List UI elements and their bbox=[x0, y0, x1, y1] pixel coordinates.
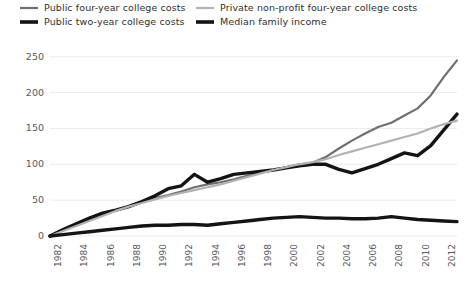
y-tick-label: 250 bbox=[0, 52, 44, 62]
college-costs-line-chart: Public four-year college costs Public tw… bbox=[0, 0, 473, 295]
x-tick-label: 2006 bbox=[369, 244, 378, 267]
legend-swatch-public-four-year bbox=[20, 5, 38, 11]
chart-legend: Public four-year college costs Public tw… bbox=[0, 0, 473, 34]
x-tick-label: 1982 bbox=[54, 244, 63, 267]
y-tick-label: 50 bbox=[0, 195, 44, 205]
legend-item-public-four-year[interactable]: Public four-year college costs bbox=[20, 2, 186, 13]
x-tick-label: 2012 bbox=[448, 244, 457, 267]
x-tick-label: 1990 bbox=[159, 244, 168, 267]
x-tick-label: 1984 bbox=[80, 244, 89, 267]
legend-swatch-private-four-year bbox=[196, 5, 214, 11]
x-tick-label: 1998 bbox=[264, 244, 273, 267]
legend-swatch-public-two-year bbox=[20, 19, 38, 25]
legend-label-public-four-year: Public four-year college costs bbox=[44, 2, 186, 13]
legend-item-median-family-income[interactable]: Median family income bbox=[196, 16, 327, 27]
legend-item-public-two-year[interactable]: Public two-year college costs bbox=[20, 16, 185, 27]
y-tick-label: 0 bbox=[0, 231, 44, 241]
y-axis-tick-labels: 050100150200250 bbox=[0, 34, 44, 244]
x-tick-label: 1994 bbox=[212, 244, 221, 267]
plot-canvas bbox=[0, 34, 473, 244]
x-tick-label: 2002 bbox=[317, 244, 326, 267]
x-tick-label: 2008 bbox=[395, 244, 404, 267]
x-tick-label: 1986 bbox=[107, 244, 116, 267]
y-tick-label: 200 bbox=[0, 88, 44, 98]
x-tick-label: 1988 bbox=[133, 244, 142, 267]
x-tick-label: 2000 bbox=[290, 244, 299, 267]
y-tick-label: 150 bbox=[0, 123, 44, 133]
legend-label-public-two-year: Public two-year college costs bbox=[44, 16, 185, 27]
x-tick-label: 2004 bbox=[343, 244, 352, 267]
series-line-median_family_income bbox=[50, 217, 457, 236]
x-tick-label: 2010 bbox=[422, 244, 431, 267]
y-gridlines bbox=[50, 57, 457, 236]
x-tick-label: 1996 bbox=[238, 244, 247, 267]
x-tick-label: 1992 bbox=[185, 244, 194, 267]
x-axis-tick-labels: 1982198419861988199019921994199619982000… bbox=[0, 244, 473, 295]
plot-area: 050100150200250 bbox=[0, 34, 473, 244]
legend-item-private-four-year[interactable]: Private non-profit four-year college cos… bbox=[196, 2, 417, 13]
series-lines bbox=[50, 60, 457, 236]
legend-label-private-four-year: Private non-profit four-year college cos… bbox=[220, 2, 417, 13]
y-tick-label: 100 bbox=[0, 159, 44, 169]
legend-swatch-median-family-income bbox=[196, 19, 214, 25]
legend-label-median-family-income: Median family income bbox=[220, 16, 327, 27]
